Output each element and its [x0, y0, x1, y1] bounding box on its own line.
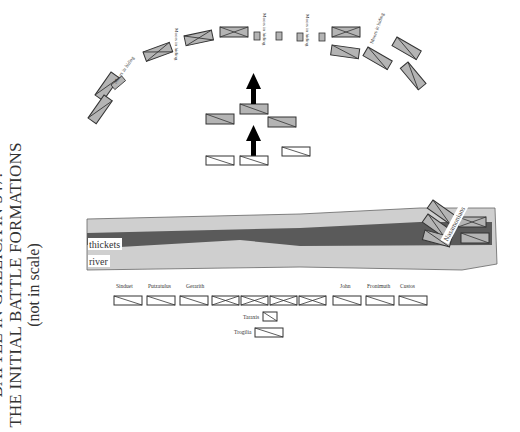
thickets-label: thickets	[89, 239, 120, 250]
commander-label-1: Sinduet	[116, 283, 133, 289]
frankish-formation	[206, 73, 310, 165]
byzantine-line	[114, 296, 427, 337]
commander-label-4: John	[340, 283, 351, 289]
ambush-label-4: Moors in hiding	[305, 14, 310, 47]
advance-arrow-2	[246, 125, 261, 156]
diagram-title: BATTLE IN GALLICA IN 547: THE INITIAL BA…	[0, 135, 57, 432]
title-line-2: THE INITIAL BATTLE FORMATIONS	[6, 135, 25, 432]
commander-label-6: Custos	[400, 283, 415, 289]
ambush-label-5: Moors in hiding	[369, 12, 385, 44]
commander-labels: Sinduet Putzatulus Gerarith John Fronimu…	[116, 283, 415, 335]
commander-label-7: Taraxis	[243, 314, 259, 320]
advance-arrow-1	[246, 73, 261, 104]
commander-label-3: Gerarith	[186, 283, 205, 289]
commander-label-2: Putzatulus	[148, 283, 171, 289]
ambush-label-3: Moors in hiding	[262, 13, 267, 46]
title-subtitle: (not in scale)	[25, 135, 43, 432]
river-label: river	[89, 256, 109, 267]
commander-label-5: Fronimuth	[367, 283, 390, 289]
ambush-label-2: Moors in hiding	[174, 28, 179, 61]
commander-label-8: Trogilia	[234, 329, 252, 335]
